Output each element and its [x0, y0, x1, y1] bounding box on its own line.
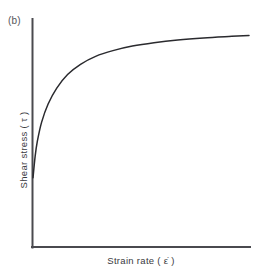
- shear-thinning-curve: [33, 35, 249, 177]
- x-axis-label: Strain rate ( ε̇ ): [32, 256, 250, 266]
- y-axis-label: Shear stress ( τ ): [19, 90, 29, 210]
- plot-area: [0, 0, 259, 280]
- figure-panel-b: (b) Shear stress ( τ ) Strain rate ( ε̇ …: [0, 0, 259, 280]
